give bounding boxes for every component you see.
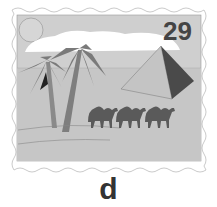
postage-stamp: 29: [0, 0, 217, 175]
sun-icon: [19, 18, 43, 42]
denomination: 29: [163, 16, 192, 46]
caption-letter: d: [0, 172, 217, 206]
